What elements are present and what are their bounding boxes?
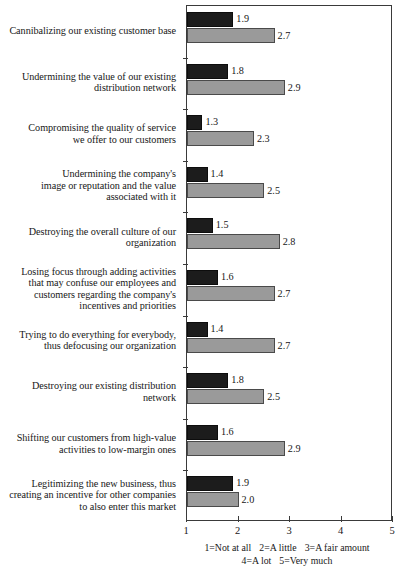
category-tick [183,161,188,162]
bar-value-label: 1.8 [231,65,244,76]
category-label-line: associated with it [0,191,176,203]
bar-value-label: 2.5 [267,391,280,402]
category-label-line: Undermining the company's [0,168,176,180]
bar-series-gray [187,441,285,456]
bar-value-label: 1.6 [221,271,234,282]
bar-series-dark [187,476,233,491]
category-label-line: that may confuse our employees and [0,277,176,289]
bar-series-dark [187,115,202,130]
scale-legend-item: 3=A fair amount [305,542,370,553]
category-label-line: Losing focus through adding activities [0,266,176,278]
bar-value-label: 1.5 [216,219,229,230]
bar-series-gray [187,28,275,43]
category-label-line: Trying to do everything for everybody, [0,329,176,341]
bar-group: 1.82.9 [187,58,391,110]
chart-page: Cannibalizing our existing customer base… [0,0,411,578]
category-tick [183,419,188,420]
bar-value-label: 1.4 [211,323,224,334]
category-tick [183,212,188,213]
bar-series-gray [187,389,264,404]
category-label-line: Compromising the quality of service [0,122,176,134]
category-label-line: Destroying the overall culture of our [0,226,176,238]
bar-value-label: 2.7 [278,30,291,41]
x-axis-tick-label: 5 [389,525,394,537]
bar-series-gray [187,131,254,146]
x-axis-tick [392,516,393,522]
category-label-line: Legitimizing the new business, thus [0,478,176,490]
plot-inner: 1.92.71.82.91.32.31.42.51.52.81.62.71.42… [187,6,391,520]
bar-group: 1.32.3 [187,109,391,161]
bar-group: 1.62.7 [187,264,391,316]
category-label-line: creating an incentive for other companie… [0,489,176,501]
bar-value-label: 2.9 [288,443,301,454]
scale-legend: 1=Not at all2=A little3=A fair amount 4=… [182,541,392,567]
scale-legend-item: 5=Very much [279,555,332,566]
plot-area: 1.92.71.82.91.32.31.42.51.52.81.62.71.42… [186,5,392,521]
category-label-line: customers regarding the company's [0,289,176,301]
bar-series-dark [187,425,218,440]
category-label-line: Shifting our customers from high-value [0,432,176,444]
bar-value-label: 1.4 [211,168,224,179]
category-label-line: Cannibalizing our existing customer base [0,25,176,37]
category-label-line: activities to low-margin ones [0,444,176,456]
category-label: Compromising the quality of servicewe of… [0,122,176,145]
bar-value-label: 2.5 [267,185,280,196]
category-tick [183,316,188,317]
bar-value-label: 1.9 [236,13,249,24]
bar-value-label: 2.7 [278,288,291,299]
category-label: Destroying our existing distributionnetw… [0,380,176,403]
bar-group: 1.42.7 [187,316,391,368]
bar-value-label: 1.6 [221,426,234,437]
x-axis: 12345 [186,521,392,522]
bar-series-dark [187,218,213,233]
bar-value-label: 1.8 [231,374,244,385]
category-tick [183,109,188,110]
bar-value-label: 1.3 [205,116,218,127]
category-label-line: image or reputation and the value [0,180,176,192]
x-axis-tick [341,516,342,522]
bar-series-gray [187,492,239,507]
bar-series-dark [187,322,208,337]
category-label-line: network [0,392,176,404]
category-label: Losing focus through adding activitiesth… [0,266,176,312]
bar-series-gray [187,234,280,249]
x-axis-tick [238,516,239,522]
category-label-line: thus defocusing our organization [0,340,176,352]
category-label-line: to also enter this market [0,501,176,513]
category-label-line: organization [0,237,176,249]
category-label: Trying to do everything for everybody,th… [0,329,176,352]
bar-series-gray [187,80,285,95]
scale-legend-item: 4=A lot [242,555,272,566]
bar-group: 1.42.5 [187,161,391,213]
category-label: Shifting our customers from high-valueac… [0,432,176,455]
category-label-line: Destroying our existing distribution [0,380,176,392]
x-axis-tick-label: 1 [183,525,188,537]
category-tick [183,58,188,59]
category-label: Undermining the company'simage or reputa… [0,168,176,203]
bar-group: 1.82.5 [187,367,391,419]
x-axis-tick-label: 3 [286,525,291,537]
bar-value-label: 2.7 [278,340,291,351]
category-label: Cannibalizing our existing customer base [0,25,176,37]
category-tick [183,470,188,471]
category-label: Destroying the overall culture of ourorg… [0,226,176,249]
category-label-line: we offer to our customers [0,134,176,146]
bar-series-dark [187,270,218,285]
x-axis-tick-label: 4 [338,525,343,537]
category-label: Legitimizing the new business, thuscreat… [0,478,176,513]
category-tick [183,264,188,265]
scale-legend-item: 1=Not at all [204,542,251,553]
bar-series-gray [187,338,275,353]
scale-legend-line-1: 1=Not at all2=A little3=A fair amount [182,541,392,554]
bar-group: 1.52.8 [187,212,391,264]
bar-value-label: 2.0 [242,494,255,505]
bar-value-label: 1.9 [236,477,249,488]
category-label-line: Undermining the value of our existing [0,71,176,83]
bar-series-dark [187,167,208,182]
bar-group: 1.62.9 [187,419,391,471]
bar-series-dark [187,64,228,79]
category-label: Undermining the value of our existingdis… [0,71,176,94]
category-label-column: Cannibalizing our existing customer base… [0,5,182,521]
x-axis-tick [289,516,290,522]
scale-legend-line-2: 4=A lot5=Very much [182,554,392,567]
